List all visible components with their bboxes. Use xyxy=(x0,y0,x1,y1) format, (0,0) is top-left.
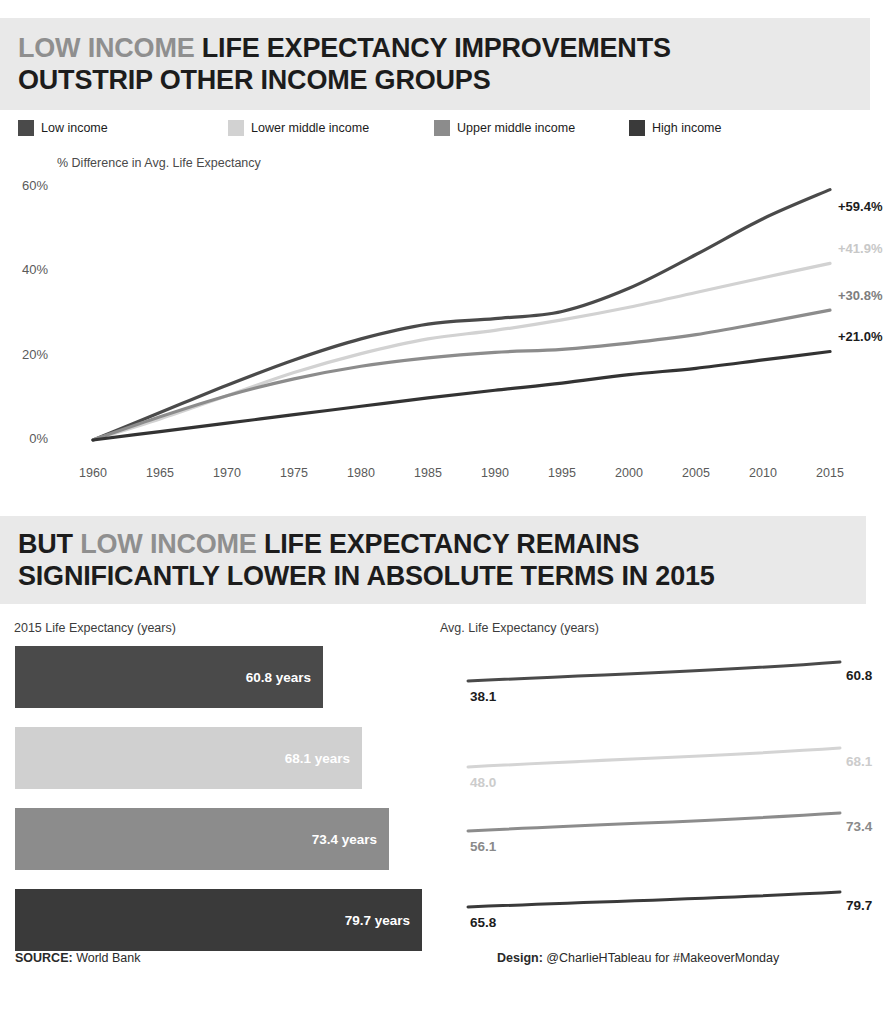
legend-item-label: Upper middle income xyxy=(457,121,575,135)
line-chart-plot xyxy=(0,150,884,495)
design-value: @CharlieHTableau for #MakeoverMonday xyxy=(543,951,779,965)
headline-line-1: LOW INCOME LIFE EXPECTANCY IMPROVEMENTS xyxy=(0,32,870,64)
legend-item-label: Low income xyxy=(41,121,108,135)
x-axis-tick-label: 2010 xyxy=(737,466,789,480)
line-series-1 xyxy=(93,263,830,440)
bar-row[interactable]: 79.7 years xyxy=(15,889,422,951)
y-axis-tick-label: 60% xyxy=(0,178,48,193)
bar-fill: 79.7 years xyxy=(15,889,422,951)
infographic-page: LOW INCOME LIFE EXPECTANCY IMPROVEMENTS … xyxy=(0,0,884,1016)
legend-item-2[interactable]: Upper middle income xyxy=(434,120,575,136)
line-endpoint-label-2: +30.8% xyxy=(838,288,882,303)
x-axis-tick-label: 1965 xyxy=(134,466,186,480)
legend-item-1[interactable]: Lower middle income xyxy=(228,120,369,136)
bar-row[interactable]: 60.8 years xyxy=(15,646,323,708)
line-endpoint-label-1: +41.9% xyxy=(838,241,882,256)
slope-series-0 xyxy=(468,662,840,681)
headline2-rest: LIFE EXPECTANCY REMAINS xyxy=(257,529,640,559)
bar-fill: 73.4 years xyxy=(15,808,389,870)
x-axis-tick-label: 1985 xyxy=(402,466,454,480)
bar-chart-title: 2015 Life Expectancy (years) xyxy=(14,621,176,635)
legend-swatch-icon xyxy=(18,120,34,136)
x-axis-tick-label: 1960 xyxy=(67,466,119,480)
headline-highlight: LOW INCOME xyxy=(18,33,194,63)
legend-swatch-icon xyxy=(228,120,244,136)
slope-chart-plot xyxy=(430,615,884,945)
slope-start-label-1: 48.0 xyxy=(470,775,496,790)
slope-end-label-2: 73.4 xyxy=(846,819,872,834)
life-expectancy-2015-bar-chart: 2015 Life Expectancy (years) 60.8 years6… xyxy=(0,615,440,945)
avg-life-expectancy-slope-chart: Avg. Life Expectancy (years) 38.160.848.… xyxy=(430,615,884,945)
slope-end-label-1: 68.1 xyxy=(846,754,872,769)
headline2-line-1: BUT LOW INCOME LIFE EXPECTANCY REMAINS xyxy=(0,528,866,560)
x-axis-tick-label: 1995 xyxy=(536,466,588,480)
slope-start-label-3: 65.8 xyxy=(470,915,496,930)
source-value: World Bank xyxy=(73,951,141,965)
legend-item-label: Lower middle income xyxy=(251,121,369,135)
design-label: Design: xyxy=(497,951,543,965)
slope-start-label-2: 56.1 xyxy=(470,839,496,854)
bar-row[interactable]: 68.1 years xyxy=(15,727,362,789)
legend-item-label: High income xyxy=(652,121,721,135)
slope-series-2 xyxy=(468,813,840,831)
bar-row[interactable]: 73.4 years xyxy=(15,808,389,870)
headline2-prefix: BUT xyxy=(18,529,80,559)
y-axis-tick-label: 20% xyxy=(0,347,48,362)
source-label: SOURCE: xyxy=(15,951,73,965)
y-axis-tick-label: 0% xyxy=(0,431,48,446)
x-axis-tick-label: 2000 xyxy=(603,466,655,480)
line-series-2 xyxy=(93,310,830,440)
legend-item-0[interactable]: Low income xyxy=(18,120,108,136)
headline-rest: LIFE EXPECTANCY IMPROVEMENTS xyxy=(202,33,671,63)
legend-swatch-icon xyxy=(629,120,645,136)
source-credit: SOURCE: World Bank xyxy=(15,951,141,965)
headline-line-2: OUTSTRIP OTHER INCOME GROUPS xyxy=(0,64,870,96)
slope-start-label-0: 38.1 xyxy=(470,689,496,704)
pct-difference-line-chart: % Difference in Avg. Life Expectancy 0%2… xyxy=(0,150,884,495)
slope-series-3 xyxy=(468,892,840,907)
legend-swatch-icon xyxy=(434,120,450,136)
legend-item-3[interactable]: High income xyxy=(629,120,721,136)
slope-end-label-3: 79.7 xyxy=(846,898,872,913)
x-axis-tick-label: 1970 xyxy=(201,466,253,480)
headline2-line-2: SIGNIFICANTLY LOWER IN ABSOLUTE TERMS IN… xyxy=(0,560,866,592)
line-endpoint-label-3: +21.0% xyxy=(838,329,882,344)
bar-value-label: 73.4 years xyxy=(312,832,389,847)
line-endpoint-label-0: +59.4% xyxy=(838,199,882,214)
headline-banner-bottom: BUT LOW INCOME LIFE EXPECTANCY REMAINS S… xyxy=(0,516,866,604)
y-axis-tick-label: 40% xyxy=(0,262,48,277)
design-credit: Design: @CharlieHTableau for #MakeoverMo… xyxy=(497,951,779,965)
bar-value-label: 68.1 years xyxy=(285,751,362,766)
chart-legend: Low incomeLower middle incomeUpper middl… xyxy=(0,118,884,142)
slope-end-label-0: 60.8 xyxy=(846,668,872,683)
bar-fill: 60.8 years xyxy=(15,646,323,708)
slope-series-1 xyxy=(468,748,840,767)
x-axis-tick-label: 2005 xyxy=(670,466,722,480)
headline-banner-top: LOW INCOME LIFE EXPECTANCY IMPROVEMENTS … xyxy=(0,18,870,110)
bar-fill: 68.1 years xyxy=(15,727,362,789)
x-axis-tick-label: 1975 xyxy=(268,466,320,480)
bar-value-label: 60.8 years xyxy=(246,670,323,685)
bar-value-label: 79.7 years xyxy=(345,913,422,928)
x-axis-tick-label: 1990 xyxy=(469,466,521,480)
x-axis-tick-label: 1980 xyxy=(335,466,387,480)
headline2-highlight: LOW INCOME xyxy=(80,529,256,559)
footer: SOURCE: World Bank Design: @CharlieHTabl… xyxy=(0,945,884,985)
x-axis-tick-label: 2015 xyxy=(804,466,856,480)
